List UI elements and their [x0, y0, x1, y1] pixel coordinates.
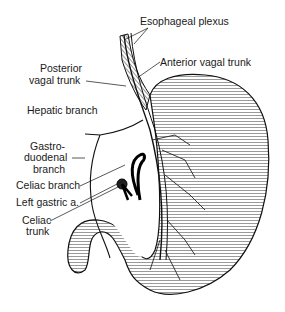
- diagram-canvas: Esophageal plexus Anterior vagal trunk P…: [0, 0, 285, 312]
- leader-lines: [0, 0, 285, 312]
